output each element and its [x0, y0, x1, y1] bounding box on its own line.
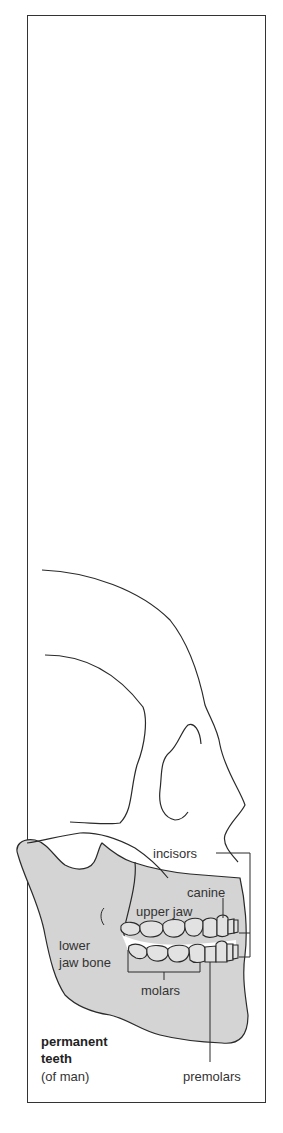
label-incisors: incisors — [153, 846, 197, 861]
skull-top-curve — [42, 570, 245, 862]
label-canine: canine — [187, 885, 225, 900]
label-premolars: premolars — [183, 1069, 241, 1084]
title-line2: teeth — [41, 1051, 72, 1066]
skull-illustration — [0, 0, 283, 1133]
title-line1: permanent — [41, 1034, 107, 1049]
label-lower-jaw-line2: jaw bone — [59, 955, 111, 970]
nasal-cavity-curve — [160, 724, 201, 820]
label-molars: molars — [141, 983, 180, 998]
label-lower-jaw-line1: lower — [59, 938, 90, 953]
orbit-curve — [45, 655, 145, 824]
label-upper-jaw: upper jaw — [136, 904, 192, 919]
subtitle: (of man) — [41, 1069, 89, 1084]
